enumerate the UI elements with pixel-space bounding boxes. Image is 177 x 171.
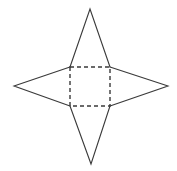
- left-triangle: [14, 67, 70, 106]
- right-triangle: [110, 67, 168, 106]
- net-diagram: [0, 0, 177, 171]
- center-square: [70, 67, 110, 106]
- top-triangle: [70, 9, 110, 67]
- figure-canvas: [0, 0, 177, 171]
- bottom-triangle: [70, 106, 110, 164]
